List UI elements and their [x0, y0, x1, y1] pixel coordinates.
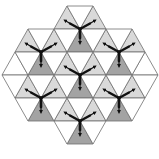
vertex-hub: [78, 119, 82, 123]
triangle-tiling-diagram: [0, 0, 159, 159]
vertex-hub: [78, 27, 82, 31]
vertex-hub: [117, 50, 121, 54]
vertex-hub: [117, 96, 121, 100]
vertex-hub: [39, 50, 43, 54]
vertex-hub: [39, 96, 43, 100]
vertex-hub: [78, 73, 82, 77]
